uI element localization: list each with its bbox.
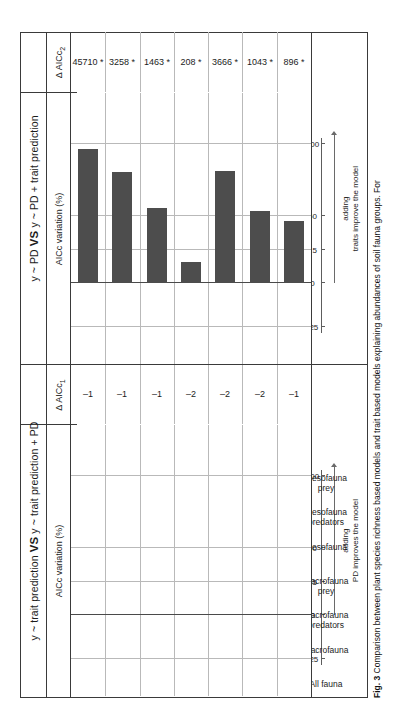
bar xyxy=(250,211,270,283)
delta-aicc-value: 208 * xyxy=(180,57,201,67)
delta-aicc-value: –1 xyxy=(152,390,162,400)
category-gridline xyxy=(105,425,106,696)
category-gridline xyxy=(277,32,278,92)
delta-aicc-value: –1 xyxy=(289,390,299,400)
category-label: Macrofauna predators xyxy=(312,610,361,630)
bar xyxy=(78,149,98,283)
value-gridline xyxy=(71,581,311,582)
right-delta-header-prefix: Δ AICc xyxy=(54,51,64,79)
category-label: All fauna xyxy=(312,679,361,689)
value-gridline xyxy=(71,547,311,548)
category-label: Mesofauna predators xyxy=(312,507,361,527)
left-delta-column: –1–1–1–2–2–2–1 xyxy=(71,365,311,424)
right-panel-delta-header: Δ AICc2 xyxy=(47,32,71,93)
category-label: Macrofauna xyxy=(312,645,361,655)
category-gridline xyxy=(174,365,175,424)
delta-aicc-value: –2 xyxy=(255,390,265,400)
delta-aicc-value: 45710 * xyxy=(73,57,104,67)
right-delta-header-sub: 2 xyxy=(59,47,66,51)
delta-aicc-value: 3666 * xyxy=(212,57,238,67)
value-gridline xyxy=(71,476,311,477)
bar xyxy=(215,171,235,283)
bar xyxy=(112,172,132,283)
left-panel-title-vs: VS xyxy=(28,537,40,553)
category-gridline xyxy=(208,93,209,364)
category-gridline xyxy=(140,93,141,364)
left-plot-area xyxy=(71,425,311,696)
left-panel-title: y ~ trait prediction VS y ~ trait predic… xyxy=(21,365,47,697)
figure-frame: y ~ trait prediction VS y ~ trait predic… xyxy=(20,32,368,698)
value-gridline xyxy=(71,215,311,216)
category-gridline xyxy=(174,32,175,92)
category-label: Macrofauna prey xyxy=(312,576,361,596)
delta-aicc-value: –2 xyxy=(186,390,196,400)
category-gridline xyxy=(105,32,106,92)
category-gridline xyxy=(174,425,175,696)
right-plot-area xyxy=(71,93,311,364)
delta-aicc-value: –1 xyxy=(83,390,93,400)
right-panel-title-suffix: y ~ PD + trait prediction xyxy=(28,115,40,230)
category-gridline xyxy=(277,425,278,696)
category-label: Mesofauna prey xyxy=(312,473,361,493)
delta-aicc-value: –1 xyxy=(117,390,127,400)
left-delta-header-sub: 1 xyxy=(59,379,66,383)
figure-panel-group: y ~ trait prediction VS y ~ trait predic… xyxy=(6,10,388,720)
category-gridline xyxy=(105,93,106,364)
delta-aicc-value: 1043 * xyxy=(247,57,273,67)
right-panel-title-vs: VS xyxy=(28,231,40,247)
left-panel-axis-label: AICc variation (%) xyxy=(47,425,71,697)
left-panel-title-suffix: y ~ trait prediction + PD xyxy=(28,422,40,537)
bar xyxy=(181,262,201,283)
category-gridline xyxy=(140,365,141,424)
caption-text: Comparison between plant species richnes… xyxy=(372,180,382,673)
value-gridline xyxy=(71,144,311,145)
category-gridline xyxy=(242,93,243,364)
left-panel-title-prefix: y ~ trait prediction xyxy=(28,552,40,640)
right-panel-title-prefix: y ~ PD xyxy=(28,246,40,281)
right-delta-column: 45710 *3258 *1463 *208 *3666 *1043 *896 … xyxy=(71,32,311,92)
category-gridline xyxy=(140,32,141,92)
category-gridline xyxy=(242,32,243,92)
category-gridline xyxy=(277,365,278,424)
value-gridline xyxy=(71,326,311,327)
category-label-area: All faunaMacrofaunaMacrofauna predatorsM… xyxy=(312,32,368,696)
category-gridline xyxy=(174,93,175,364)
value-gridline xyxy=(71,658,311,659)
bar xyxy=(147,208,167,283)
figure-caption: Fig. 3 Comparison between plant species … xyxy=(372,18,383,698)
category-gridline xyxy=(242,365,243,424)
category-gridline xyxy=(242,425,243,696)
caption-label: Fig. 3 xyxy=(372,676,382,698)
delta-aicc-value: 3258 * xyxy=(109,57,135,67)
category-gridline xyxy=(140,425,141,696)
category-gridline xyxy=(208,365,209,424)
category-gridline xyxy=(277,93,278,364)
delta-aicc-value: 896 * xyxy=(283,57,304,67)
left-delta-header-prefix: Δ AICc xyxy=(54,383,64,411)
category-label: Mesofauna xyxy=(312,542,361,552)
category-gridline xyxy=(208,32,209,92)
figure-stage: y ~ trait prediction VS y ~ trait predic… xyxy=(0,0,396,720)
right-panel-title: y ~ PD VS y ~ PD + trait prediction xyxy=(21,32,47,365)
left-panel-delta-header: Δ AICc1 xyxy=(47,365,71,425)
value-gridline xyxy=(71,249,311,250)
bar xyxy=(284,221,304,283)
right-panel-axis-label: AICc variation (%) xyxy=(47,93,71,365)
delta-aicc-value: 1463 * xyxy=(144,57,170,67)
category-gridline xyxy=(208,425,209,696)
category-gridline xyxy=(105,365,106,424)
zero-baseline xyxy=(71,614,311,615)
delta-aicc-value: –2 xyxy=(220,390,230,400)
